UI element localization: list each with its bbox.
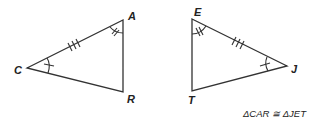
angle-e-double-arc (192, 26, 206, 36)
side-ej-triple-tick (232, 37, 244, 49)
triangle-car-edges (27, 20, 123, 92)
congruence-caption: ΔCAR ≅ ΔJET (242, 108, 307, 119)
vertex-label-t: T (188, 94, 196, 106)
side-ca-triple-tick (68, 39, 80, 51)
triangle-jet-edges (192, 19, 287, 91)
triangle-car (27, 20, 123, 92)
vertex-label-e: E (194, 6, 202, 18)
triangle-jet (192, 19, 287, 91)
angle-a-double-arc (110, 27, 123, 36)
angle-c-single-arc (44, 58, 54, 73)
angle-j-single-arc (260, 57, 270, 71)
vertex-label-j: J (291, 63, 298, 75)
congruent-triangles-diagram: A C R E J T ΔCAR ≅ ΔJET (0, 0, 321, 126)
vertex-label-c: C (14, 64, 23, 76)
vertex-label-r: R (127, 93, 135, 105)
vertex-label-a: A (127, 10, 136, 22)
